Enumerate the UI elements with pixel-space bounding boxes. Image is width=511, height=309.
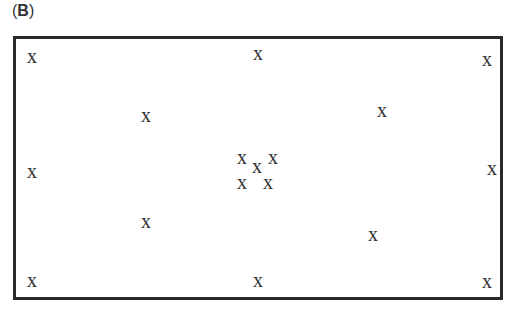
x-marker: x bbox=[141, 105, 151, 125]
x-marker: x bbox=[27, 46, 37, 66]
x-marker: x bbox=[27, 161, 37, 181]
panel-label: (B) bbox=[12, 2, 34, 20]
x-marker: x bbox=[268, 147, 278, 167]
x-marker: x bbox=[368, 224, 378, 244]
x-marker: x bbox=[237, 172, 247, 192]
panel-label-close: ) bbox=[29, 2, 34, 19]
x-marker: x bbox=[252, 156, 262, 176]
x-marker: x bbox=[141, 211, 151, 231]
x-marker: x bbox=[253, 43, 263, 63]
x-marker: x bbox=[487, 158, 497, 178]
x-marker: x bbox=[237, 147, 247, 167]
panel-label-letter: B bbox=[17, 2, 29, 19]
x-marker: x bbox=[482, 49, 492, 69]
x-marker: x bbox=[263, 172, 273, 192]
x-marker: x bbox=[27, 270, 37, 290]
x-marker: x bbox=[253, 270, 263, 290]
x-marker: x bbox=[482, 271, 492, 291]
x-marker: x bbox=[377, 100, 387, 120]
